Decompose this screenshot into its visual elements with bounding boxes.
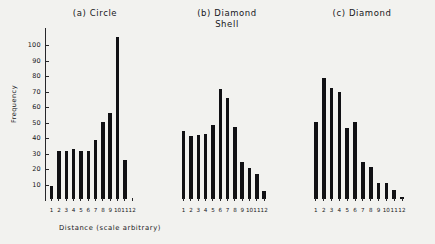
bar [116,37,120,199]
bar-slot [114,29,121,199]
bar-slot [85,29,92,199]
x-tick [331,198,332,201]
x-tick [264,198,265,201]
x-tick-label: 11 [390,207,398,213]
x-tick-label: 8 [367,207,375,213]
panel-a-xticks [48,198,136,201]
x-tick-label: 1 [312,207,320,213]
x-tick [132,198,133,201]
x-tick [117,198,118,201]
x-tick-slot [180,198,187,201]
x-tick-slot [382,198,390,201]
x-tick-label: 6 [85,207,92,213]
bar-slot [335,29,343,199]
x-tick [95,198,96,201]
x-tick-label: 12 [261,207,268,213]
x-tick-slot [129,198,136,201]
y-tick-label: 20 [19,165,41,173]
x-tick-slot [367,198,375,201]
bar-slot [390,29,398,199]
panel-c-plot: 123456789101112 [312,28,406,200]
panel-c-title: (c) Diamond [300,8,424,19]
x-tick-slot [246,198,253,201]
x-tick [394,198,395,201]
x-tick-label: 9 [239,207,246,213]
x-tick [66,198,67,201]
x-tick [242,198,243,201]
bar-slot [129,29,136,199]
bar [345,128,349,199]
x-tick-slot [359,198,367,201]
x-tick-label: 5 [77,207,84,213]
x-tick-slot [77,198,84,201]
x-tick-slot [63,198,70,201]
bar-slot [187,29,194,199]
y-tick-label: 40 [19,134,41,142]
x-tick-label: 11 [121,207,128,213]
y-axis-line [45,28,46,201]
x-tick-slot [253,198,260,201]
x-tick [51,198,52,201]
panel-a-xlabels: 123456789101112 [48,207,136,213]
bar-slot [180,29,187,199]
bar [353,122,357,199]
x-tick [386,198,387,201]
x-tick-slot [398,198,406,201]
x-tick-label: 7 [92,207,99,213]
bar [79,151,83,199]
x-tick [212,198,213,201]
x-tick-slot [195,198,202,201]
x-tick-slot [187,198,194,201]
bar-slot [224,29,231,199]
x-tick-slot [209,198,216,201]
panel-a-title: (a) Circle [36,8,154,19]
bar-slot [320,29,328,199]
x-tick-label: 12 [129,207,136,213]
x-tick-slot [85,198,92,201]
y-tick-label: 60 [19,103,41,111]
bar-slot [375,29,383,199]
panel-c-bars [312,29,406,199]
bar [240,162,244,199]
bar-slot [121,29,128,199]
x-tick [256,198,257,201]
bar [219,89,223,199]
bar-slot [209,29,216,199]
x-tick-label: 9 [375,207,383,213]
x-tick [227,198,228,201]
x-tick [249,198,250,201]
histogram-figure: (a) Circle (b) Diamond Shell (c) Diamond… [0,0,435,244]
bar-slot [217,29,224,199]
x-tick-label: 8 [231,207,238,213]
x-tick-slot [312,198,320,201]
x-tick-label: 9 [107,207,114,213]
bar [322,78,326,199]
panel-a-bars [48,29,136,199]
x-tick-slot [107,198,114,201]
x-tick [234,198,235,201]
x-tick-slot [351,198,359,201]
panel-b-title: (b) Diamond Shell [168,8,286,29]
x-tick [347,198,348,201]
x-tick [124,198,125,201]
y-tick-label: 100 [19,41,41,49]
bar-slot [107,29,114,199]
x-tick-slot [343,198,351,201]
panel-b-plot: 123456789101112 [180,28,268,200]
bar-slot [328,29,336,199]
y-tick-label: 80 [19,72,41,80]
bar-slot [246,29,253,199]
bar-slot [359,29,367,199]
bar-slot [48,29,55,199]
panel-b-bars [180,29,268,199]
bar [57,151,61,199]
bar-slot [92,29,99,199]
bar [255,174,259,199]
x-tick-slot [114,198,121,201]
x-tick-slot [48,198,55,201]
x-tick-label: 5 [343,207,351,213]
bar-slot [99,29,106,199]
x-tick-label: 3 [328,207,336,213]
x-tick-label: 4 [202,207,209,213]
x-tick-label: 5 [209,207,216,213]
